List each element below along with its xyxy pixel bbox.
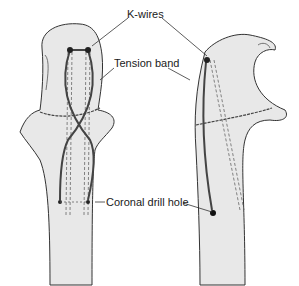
- k-wires-label: K-wires: [127, 9, 164, 20]
- diagram-canvas: [0, 0, 299, 286]
- coronal-drill-hole-label: Coronal drill hole: [106, 197, 189, 208]
- right-bone-outline: [195, 34, 286, 285]
- tension-band-label: Tension band: [114, 58, 179, 69]
- left-bone-view: [20, 24, 114, 285]
- right-bone-view: [195, 34, 286, 285]
